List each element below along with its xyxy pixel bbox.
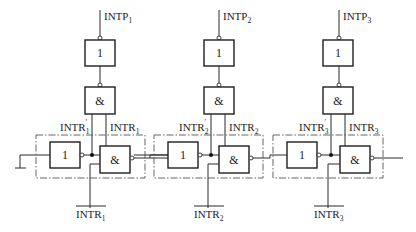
gate-label: 1 (335, 46, 341, 60)
daisy-chain-diagram: INTP1 1 & INTR1′ INTR1 1 & INTR1 INTP2 (0, 0, 416, 232)
junction-dot (209, 153, 213, 157)
gate-label: 1 (216, 46, 222, 60)
intp-3-label: INTP3 (343, 10, 371, 25)
stage-3: INTP3 1 & INTR3′ INTR3 1 & INTR3 (273, 10, 403, 223)
ground-icon (15, 155, 50, 168)
intp-1-label: INTP1 (104, 10, 132, 25)
intp-2-label: INTP2 (223, 10, 251, 25)
gate-label: 1 (180, 148, 186, 162)
stage-2: INTP2 1 & INTR2′ INTR2 1 & INTR2 (154, 10, 263, 223)
intr-1-label: INTR1 (110, 121, 140, 136)
gate-label: & (95, 94, 105, 108)
intr-prime-3-label: INTR3′ (299, 118, 329, 136)
stage-1: INTP1 1 & INTR1′ INTR1 1 & INTR1 (36, 10, 145, 223)
intr-prime-1-label: INTR1′ (60, 118, 90, 136)
gate-label: & (350, 153, 360, 167)
gate-label: & (110, 153, 120, 167)
gate-label: 1 (62, 148, 68, 162)
gate-label: & (214, 94, 224, 108)
gate-label: & (333, 94, 343, 108)
gate-label: & (229, 153, 239, 167)
intr-3-label: INTR3 (349, 121, 379, 136)
gate-label: 1 (97, 46, 103, 60)
gate-label: 1 (299, 148, 305, 162)
intr-prime-2-label: INTR2′ (179, 118, 209, 136)
intr-bar-2-label: INTR2 (194, 208, 224, 223)
junction-dot (329, 153, 333, 157)
junction-dot (90, 153, 94, 157)
intr-bar-3-label: INTR3 (314, 208, 344, 223)
intr-bar-1-label: INTR1 (76, 208, 106, 223)
intr-2-label: INTR2 (229, 121, 259, 136)
